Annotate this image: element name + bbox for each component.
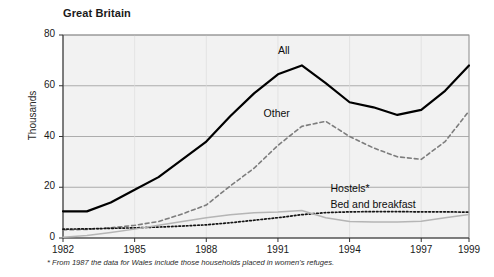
plot-area: [0, 0, 494, 277]
y-tick-label-80: 80: [29, 28, 55, 39]
series-label-other: Other: [264, 107, 290, 119]
chart-figure: Great Britain Thousands 0204060801982198…: [0, 0, 494, 277]
series-label-bed-and-breakfast: Bed and breakfast: [330, 198, 415, 210]
y-tick-label-40: 40: [29, 130, 55, 141]
x-tick-label-1985: 1985: [115, 244, 155, 255]
series-label-all: All: [278, 44, 290, 56]
x-tick-label-1994: 1994: [330, 244, 370, 255]
x-tick-label-1999: 1999: [449, 244, 489, 255]
footnote: * From 1987 the data for Wales include t…: [47, 258, 334, 267]
y-tick-label-60: 60: [29, 79, 55, 90]
x-tick-label-1991: 1991: [258, 244, 298, 255]
x-tick-label-1997: 1997: [401, 244, 441, 255]
x-tick-label-1988: 1988: [186, 244, 226, 255]
series-label-hostels: Hostels*: [330, 182, 369, 194]
x-tick-label-1982: 1982: [43, 244, 83, 255]
y-tick-label-20: 20: [29, 180, 55, 191]
y-tick-label-0: 0: [29, 231, 55, 242]
